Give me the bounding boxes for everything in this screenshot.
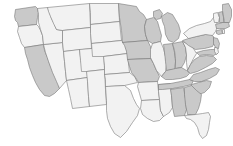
state-FL[interactable] [185, 113, 211, 139]
state-NJ[interactable] [214, 38, 220, 49]
state-AL[interactable] [171, 88, 187, 117]
state-WA[interactable] [15, 7, 39, 27]
state-KS[interactable] [104, 54, 130, 75]
state-AZ[interactable] [67, 78, 90, 109]
state-OR[interactable] [18, 25, 44, 48]
us-map-svg [0, 0, 233, 146]
state-WY[interactable] [63, 28, 92, 52]
us-choropleth-map [0, 0, 233, 146]
state-OK[interactable] [105, 73, 138, 87]
state-WI[interactable] [145, 18, 162, 44]
state-RI[interactable] [223, 30, 225, 34]
state-CT[interactable] [217, 30, 223, 35]
state-MN[interactable] [119, 4, 148, 43]
state-ND[interactable] [90, 4, 120, 25]
state-TX[interactable] [106, 86, 140, 138]
state-SD[interactable] [91, 22, 122, 44]
state-AR[interactable] [138, 82, 160, 101]
state-NM[interactable] [87, 70, 107, 107]
state-ME[interactable] [223, 4, 232, 23]
state-IA[interactable] [123, 41, 153, 60]
state-NY[interactable] [184, 18, 218, 39]
state-MA[interactable] [216, 23, 230, 29]
